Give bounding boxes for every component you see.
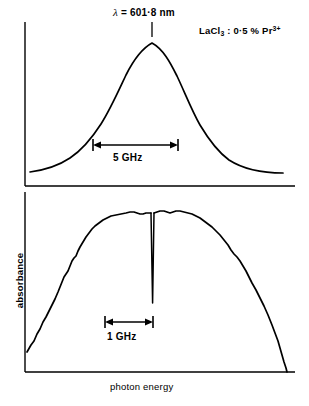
scalebar-label-1ghz: 1 GHz: [107, 331, 136, 342]
scalebar-label-5ghz: 5 GHz: [113, 152, 142, 163]
sample-middle: : 0·5 % Pr: [224, 25, 272, 36]
y-axis-label: absorbance: [14, 241, 25, 321]
sample-superscript: 3+: [273, 25, 281, 32]
lambda-symbol: λ: [113, 6, 118, 18]
x-axis-label: photon energy: [110, 381, 173, 392]
scalebar-1ghz: [105, 316, 153, 328]
top-panel: [25, 22, 295, 186]
inhomogeneous-line-curve: [30, 43, 283, 173]
burned-hole-curve-right: [154, 211, 287, 372]
wavelength-annotation: λ = 601·8 nm: [113, 6, 175, 18]
sample-composition-annotation: LaCl3 : 0·5 % Pr3+: [199, 25, 281, 37]
wavelength-value: = 601·8 nm: [121, 7, 175, 18]
bottom-panel: [25, 192, 295, 372]
plot-canvas: [0, 0, 309, 406]
spectral-hole-burning-figure: λ = 601·8 nm LaCl3 : 0·5 % Pr3+ 5 GHz 1 …: [0, 0, 309, 406]
spectral-hole: [151, 213, 154, 303]
sample-prefix: LaCl: [199, 25, 220, 36]
scalebar-5ghz: [93, 139, 178, 151]
